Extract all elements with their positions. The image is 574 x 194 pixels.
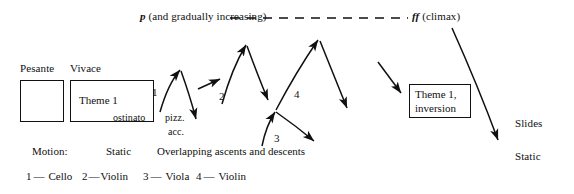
instrument-key-item: 4—Violin	[196, 170, 246, 182]
section-box-pesante	[20, 80, 64, 122]
motion-row-static: Static	[106, 145, 131, 157]
instrument-key-4-instrument: Violin	[217, 170, 246, 182]
inversion-box: Theme 1, inversion	[409, 84, 471, 118]
connector-arrow	[198, 79, 220, 89]
tempo-label-pesante: Pesante	[20, 62, 54, 75]
descent-arrow-3	[276, 112, 314, 141]
crescendo-annotation: p (and gradually increasing)	[140, 10, 267, 23]
climax-annotation: ff (climax)	[412, 10, 460, 23]
voice-number-1: 1	[152, 86, 158, 99]
voice-number-3: 3	[274, 132, 280, 145]
right-label-slides: Slides	[515, 117, 543, 130]
ascent-arrow-2	[222, 45, 246, 104]
right-label-static: Static	[515, 150, 541, 163]
instrument-key-1-dash: —	[32, 170, 47, 182]
ascent-arrow-1	[160, 70, 180, 112]
instrument-key-4-dash: —	[202, 170, 217, 182]
voice-number-2: 2	[219, 90, 225, 103]
motion-row-title: Motion:	[32, 145, 67, 157]
instrument-key-3-dash: —	[149, 170, 164, 182]
label-pizz: pizz.	[165, 112, 185, 124]
crescendo-text: (and gradually increasing)	[146, 10, 267, 22]
slide-arrow-left	[378, 62, 401, 93]
climax-text: (climax)	[419, 10, 460, 22]
instrument-key-3-instrument: Viola	[164, 170, 190, 182]
instrument-key-item: 3—Viola	[143, 170, 189, 182]
instrument-key-2-instrument: Violin	[101, 170, 128, 182]
music-form-diagram: p (and gradually increasing) ff (climax)…	[0, 0, 574, 194]
voice-number-4: 4	[294, 88, 300, 101]
descent-arrow-4	[320, 41, 347, 108]
inversion-box-line1: Theme 1,	[415, 88, 457, 100]
instrument-key-2-dash: —	[88, 170, 101, 182]
section-box-vivace-text: Theme 1	[79, 94, 118, 106]
instrument-key-1-instrument: Cello	[47, 170, 73, 182]
label-ostinato: ostinato	[113, 112, 145, 124]
tempo-label-vivace: Vivace	[70, 62, 101, 75]
motion-row-overlapping: Overlapping ascents and descents	[157, 145, 305, 157]
instrument-key-item: 2—Violin	[82, 170, 128, 182]
descent-arrow-2	[247, 46, 268, 100]
inversion-box-line2: inversion	[415, 102, 456, 114]
instrument-key-item: 1—Cello	[26, 170, 72, 182]
label-acc: acc.	[168, 126, 184, 138]
